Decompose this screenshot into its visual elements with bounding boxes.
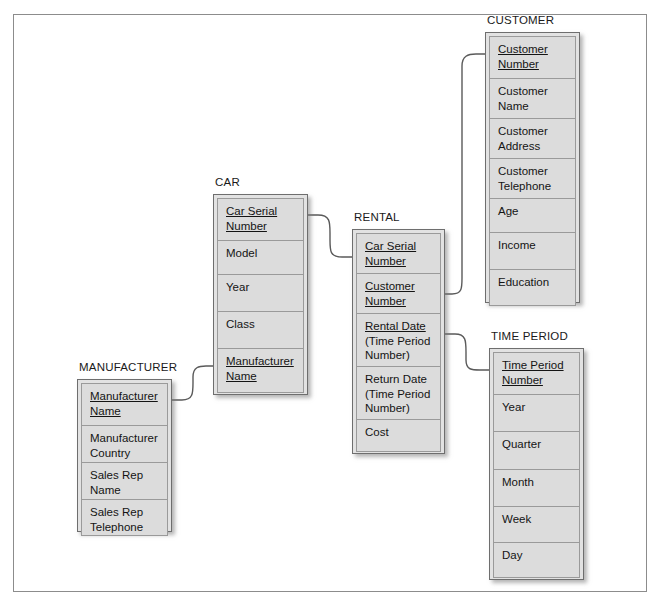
attribute-row[interactable]: ManufacturerCountry [81, 425, 168, 462]
attribute-row[interactable]: Income [489, 232, 576, 269]
attribute-text: Age [498, 204, 568, 219]
attribute-text: Year [226, 280, 296, 295]
attribute-text: Class [226, 317, 296, 332]
entity-manufacturer[interactable]: MANUFACTURERManufacturerNameManufacturer… [77, 379, 172, 532]
attribute-row[interactable]: Class [217, 311, 304, 348]
entity-title-rental: RENTAL [354, 211, 400, 223]
attribute-row[interactable]: Quarter [493, 431, 580, 469]
entity-box-customer: CustomerNumberCustomerNameCustomerAddres… [485, 32, 580, 303]
attribute-text: Sales Rep [90, 505, 160, 520]
entity-time_period[interactable]: TIME PERIODTime PeriodNumberYearQuarterM… [489, 348, 584, 580]
attribute-text: Car Serial [226, 204, 296, 219]
attribute-text: Manufacturer [90, 389, 160, 404]
attribute-row[interactable]: Week [493, 506, 580, 542]
attribute-text: Number) [365, 348, 433, 363]
attribute-text: Quarter [502, 437, 572, 452]
attribute-text: Manufacturer [90, 431, 160, 446]
attribute-text: Name [90, 404, 160, 419]
attribute-row[interactable]: ManufacturerName [217, 348, 304, 393]
attribute-row[interactable]: Model [217, 240, 304, 274]
attribute-row[interactable]: Sales RepTelephone [81, 499, 168, 536]
attribute-text: Address [498, 139, 568, 154]
attribute-text: Customer [498, 42, 568, 57]
attribute-text: (Time Period [365, 334, 433, 349]
attribute-row[interactable]: CustomerNumber [489, 36, 576, 78]
attribute-text: Number [365, 294, 433, 309]
attribute-text: Income [498, 238, 568, 253]
attribute-row[interactable]: CustomerAddress [489, 118, 576, 158]
attribute-row[interactable]: Time PeriodNumber [493, 352, 580, 394]
attribute-text: Return Date [365, 372, 433, 387]
attribute-row[interactable]: Age [489, 198, 576, 232]
attribute-text: Model [226, 246, 296, 261]
attribute-text: Customer [498, 124, 568, 139]
attribute-text: Customer [498, 164, 568, 179]
attribute-row[interactable]: Education [489, 269, 576, 306]
attribute-text: Number) [365, 401, 433, 416]
attribute-text: Day [502, 548, 572, 563]
attribute-text: Sales Rep [90, 468, 160, 483]
attribute-row[interactable]: Year [493, 394, 580, 431]
attribute-row[interactable]: Sales RepName [81, 462, 168, 499]
attribute-text: Number [365, 254, 433, 269]
entity-title-time_period: TIME PERIOD [491, 330, 568, 342]
entity-title-customer: CUSTOMER [487, 14, 554, 26]
attribute-row[interactable]: Car SerialNumber [356, 233, 441, 273]
attribute-text: Customer [498, 84, 568, 99]
attribute-row[interactable]: ManufacturerName [81, 383, 168, 425]
attribute-text: Education [498, 275, 568, 290]
attribute-row[interactable]: Return Date(Time PeriodNumber) [356, 366, 441, 419]
attribute-text: Week [502, 512, 572, 527]
attribute-text: Time Period [502, 358, 572, 373]
attribute-row[interactable]: Cost [356, 419, 441, 452]
entity-box-rental: Car SerialNumberCustomerNumberRental Dat… [352, 229, 445, 454]
entity-box-car: Car SerialNumberModelYearClassManufactur… [213, 194, 308, 395]
attribute-text: Telephone [90, 520, 160, 535]
attribute-row[interactable]: CustomerNumber [356, 273, 441, 313]
entity-box-manufacturer: ManufacturerNameManufacturerCountrySales… [77, 379, 172, 532]
attribute-row[interactable]: Day [493, 542, 580, 578]
attribute-text: Country [90, 446, 160, 461]
entity-title-car: CAR [215, 176, 240, 188]
entity-rental[interactable]: RENTALCar SerialNumberCustomerNumberRent… [352, 229, 445, 454]
attribute-text: Customer [365, 279, 433, 294]
er-diagram-canvas: CUSTOMERCustomerNumberCustomerNameCustom… [0, 0, 661, 606]
attribute-row[interactable]: Car SerialNumber [217, 198, 304, 240]
attribute-row[interactable]: CustomerTelephone [489, 158, 576, 198]
attribute-text: Rental Date [365, 319, 433, 334]
attribute-text: Number [498, 57, 568, 72]
attribute-text: Car Serial [365, 239, 433, 254]
attribute-text: Year [502, 400, 572, 415]
entity-customer[interactable]: CUSTOMERCustomerNumberCustomerNameCustom… [485, 32, 580, 303]
attribute-text: Cost [365, 425, 433, 440]
attribute-row[interactable]: CustomerName [489, 78, 576, 118]
attribute-text: Number [502, 373, 572, 388]
attribute-text: (Time Period [365, 387, 433, 402]
attribute-row[interactable]: Year [217, 274, 304, 311]
attribute-row[interactable]: Rental Date(Time PeriodNumber) [356, 313, 441, 366]
attribute-text: Number [226, 219, 296, 234]
attribute-text: Name [90, 483, 160, 498]
entity-car[interactable]: CARCar SerialNumberModelYearClassManufac… [213, 194, 308, 395]
attribute-text: Manufacturer [226, 354, 296, 369]
attribute-text: Name [226, 369, 296, 384]
entity-box-time_period: Time PeriodNumberYearQuarterMonthWeekDay [489, 348, 584, 580]
entity-title-manufacturer: MANUFACTURER [79, 361, 177, 373]
attribute-text: Month [502, 475, 572, 490]
attribute-row[interactable]: Month [493, 469, 580, 506]
attribute-text: Name [498, 99, 568, 114]
attribute-text: Telephone [498, 179, 568, 194]
